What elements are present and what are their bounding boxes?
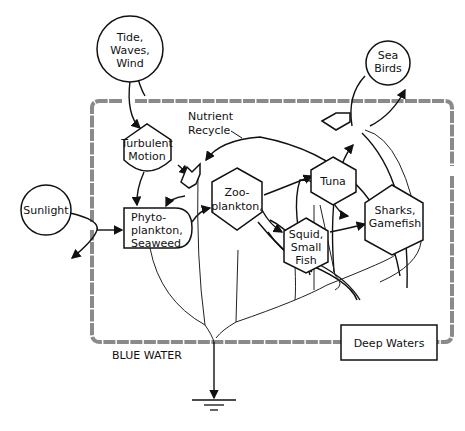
node-zooplankton: Zoo- plankton, [211, 168, 263, 230]
node-squid-small-fish: Squid, Small Fish [284, 218, 328, 273]
ecosystem-diagram: Tide, Waves, Wind Sunlight Sea Birds Nut… [0, 0, 465, 431]
node-phytoplankton: Phyto- plankton, Seaweed [124, 208, 192, 250]
source-tide-waves-wind: Tide, Waves, Wind [97, 16, 163, 82]
node-deep-waters: Deep Waters [341, 325, 437, 360]
svg-text:Tide,: Tide, [116, 31, 144, 44]
svg-text:Birds: Birds [374, 62, 402, 75]
svg-text:Sunlight: Sunlight [23, 204, 69, 217]
heat-sink-icon [192, 342, 236, 410]
svg-text:Phyto-: Phyto- [131, 211, 166, 224]
nutrient-recycle-label: Nutrient Recycle [188, 110, 242, 138]
svg-text:Recycle: Recycle [188, 124, 231, 137]
svg-text:plankton,: plankton, [211, 200, 263, 213]
svg-text:Motion: Motion [128, 150, 165, 163]
source-sunlight: Sunlight [21, 185, 71, 235]
svg-text:Seaweed: Seaweed [131, 237, 181, 250]
svg-text:Waves,: Waves, [110, 44, 149, 57]
svg-text:Wind: Wind [116, 57, 144, 70]
svg-text:Fish: Fish [295, 254, 316, 267]
svg-text:Squid,: Squid, [289, 228, 323, 241]
svg-text:Sharks,: Sharks, [375, 204, 416, 217]
boundary-label: BLUE WATER [112, 349, 182, 362]
source-sea-birds: Sea Birds [366, 41, 410, 85]
svg-text:Turbulent: Turbulent [120, 137, 173, 150]
svg-text:Sea: Sea [378, 49, 399, 62]
svg-text:Zoo-: Zoo- [224, 186, 249, 199]
svg-text:Deep Waters: Deep Waters [354, 337, 425, 350]
interaction-gate-icon [181, 164, 200, 188]
interaction-gate-icon [322, 113, 350, 130]
svg-text:plankton,: plankton, [131, 224, 183, 237]
node-tuna: Tuna [311, 157, 356, 205]
svg-text:Nutrient: Nutrient [188, 110, 234, 123]
node-sharks-gamefish: Sharks, Gamefish [365, 185, 423, 255]
svg-text:Small: Small [291, 241, 322, 254]
svg-text:Tuna: Tuna [319, 175, 346, 188]
svg-text:Gamefish: Gamefish [369, 217, 421, 230]
node-turbulent-motion: Turbulent Motion [120, 124, 173, 171]
